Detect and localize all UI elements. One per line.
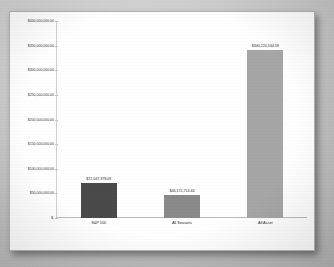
chart-panel: $-$50,000,000.00$100,000,000.00$150,000,… (9, 11, 315, 251)
y-axis-tick-label: $50,000,000.00 (30, 191, 54, 195)
bar-value-label: $46,171,713.44 (170, 189, 195, 193)
bar[interactable] (247, 50, 283, 218)
y-axis-tick-label: $150,000,000.00 (28, 142, 54, 146)
y-axis-tick-labels: $-$50,000,000.00$100,000,000.00$150,000,… (12, 12, 54, 252)
x-axis-category-label: S&P 500 (91, 220, 106, 225)
bar-slot: $72,047,378.09 (81, 21, 117, 218)
screenshot-root: $-$50,000,000.00$100,000,000.00$150,000,… (0, 0, 334, 267)
y-axis-tick-label: $100,000,000.00 (28, 167, 54, 171)
y-axis-tick-mark (55, 218, 58, 219)
y-axis-tick-label: $- (51, 216, 54, 220)
bar[interactable] (164, 195, 200, 218)
bar-series: $72,047,378.09$46,171,713.44$340,220,534… (57, 21, 307, 218)
y-axis-tick-label: $250,000,000.00 (28, 93, 54, 97)
x-axis-category-label: All Asset (258, 220, 272, 225)
bar[interactable] (81, 183, 117, 218)
bar-value-label: $72,047,378.09 (86, 177, 111, 181)
x-axis-category-labels: S&P 500All SeasonsAll Asset (57, 220, 307, 232)
y-axis-tick-label: $300,000,000.00 (28, 68, 54, 72)
y-axis-tick-label: $350,000,000.00 (28, 44, 54, 48)
x-axis-category-label: All Seasons (172, 220, 192, 225)
bar-value-label: $340,220,534.59 (252, 44, 279, 48)
y-axis-tick-label: $400,000,000.00 (28, 19, 54, 23)
y-axis-tick-label: $200,000,000.00 (28, 118, 54, 122)
bar-slot: $340,220,534.59 (247, 21, 283, 218)
bar-slot: $46,171,713.44 (164, 21, 200, 218)
